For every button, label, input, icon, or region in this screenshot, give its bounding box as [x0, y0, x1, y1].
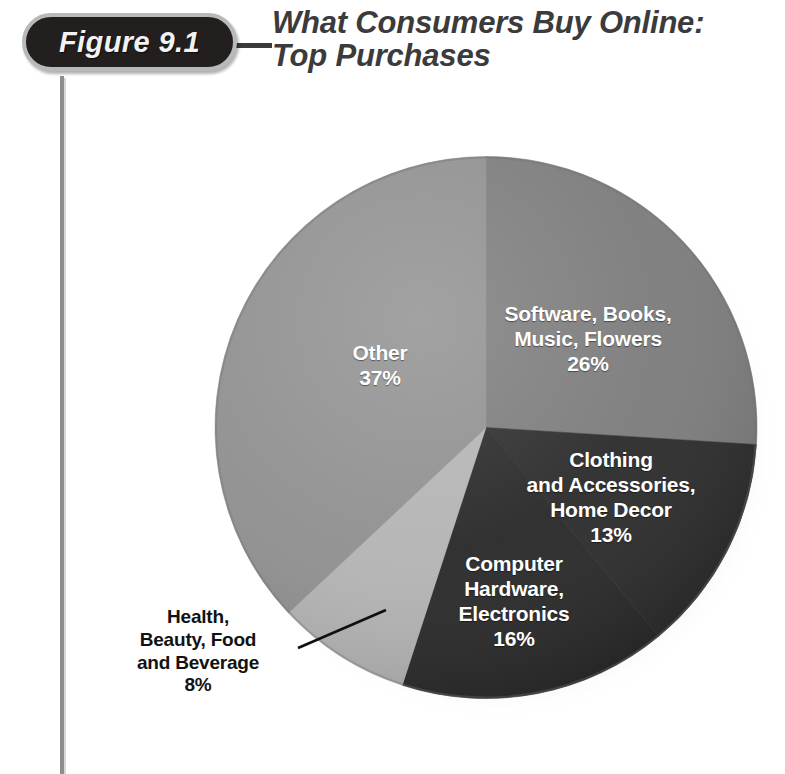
figure-container: Figure 9.1 What Consumers Buy Online: To…	[0, 0, 785, 774]
slice-label-computer-line-2: Hardware,	[418, 577, 610, 602]
slice-label-health-line-1: Health,	[92, 606, 304, 629]
figure-title-line-1: What Consumers Buy Online:	[272, 6, 772, 39]
slice-label-health-line-3: and Beverage	[92, 652, 304, 675]
slice-label-clothing-line-2: and Accessories,	[492, 473, 730, 498]
slice-label-other-value: 37%	[320, 366, 440, 391]
left-margin-rule	[60, 76, 64, 774]
slice-label-computer-line-3: Electronics	[418, 602, 610, 627]
slice-label-clothing-line-3: Home Decor	[492, 498, 730, 523]
slice-leader-line-health	[296, 608, 388, 650]
figure-title: What Consumers Buy Online: Top Purchases	[272, 6, 772, 73]
slice-label-software-line-1: Software, Books,	[455, 302, 721, 327]
slice-label-other: Other 37%	[320, 341, 440, 391]
slice-label-computer-line-1: Computer	[418, 552, 610, 577]
slice-label-clothing-line-1: Clothing	[492, 448, 730, 473]
slice-label-health-line-2: Beauty, Food	[92, 629, 304, 652]
slice-label-clothing-value: 13%	[492, 523, 730, 548]
slice-label-other-line-1: Other	[320, 341, 440, 366]
badge-connector-line	[236, 43, 272, 48]
slice-label-software-value: 26%	[455, 352, 721, 377]
slice-label-software-line-2: Music, Flowers	[455, 327, 721, 352]
slice-label-computer-value: 16%	[418, 627, 610, 652]
slice-label-computer: Computer Hardware, Electronics 16%	[418, 552, 610, 652]
slice-label-health-value: 8%	[92, 674, 304, 697]
figure-title-line-2: Top Purchases	[272, 39, 772, 72]
slice-label-software: Software, Books, Music, Flowers 26%	[455, 302, 721, 377]
figure-number-badge: Figure 9.1	[22, 13, 237, 71]
figure-number-label: Figure 9.1	[59, 28, 200, 57]
slice-label-health: Health, Beauty, Food and Beverage 8%	[92, 606, 304, 697]
slice-label-clothing: Clothing and Accessories, Home Decor 13%	[492, 448, 730, 548]
left-margin-rule-shadow	[64, 78, 66, 774]
